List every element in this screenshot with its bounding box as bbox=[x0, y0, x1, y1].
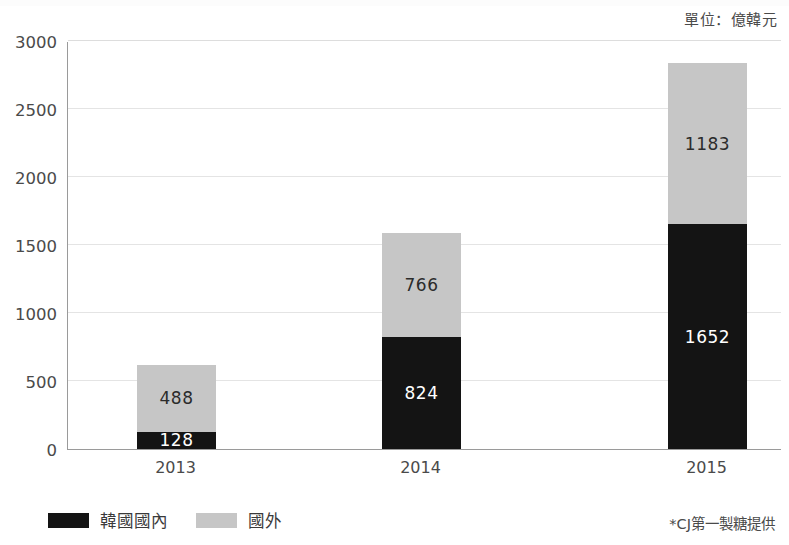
bar-segment-overseas[interactable]: 766 bbox=[382, 233, 461, 337]
page-background-tint bbox=[0, 0, 789, 6]
y-axis-tick-label: 500 bbox=[0, 373, 57, 392]
legend-item-domestic[interactable]: 韓國國內 bbox=[48, 508, 168, 532]
bar-value-label: 824 bbox=[405, 383, 439, 403]
x-axis-tick-label: 2015 bbox=[686, 458, 727, 477]
bar-segment-domestic[interactable]: 128 bbox=[137, 432, 216, 449]
legend-swatch-domestic bbox=[48, 513, 89, 528]
legend-swatch-overseas bbox=[196, 513, 237, 528]
legend-label: 國外 bbox=[248, 508, 282, 532]
bar-value-label: 1183 bbox=[685, 134, 730, 154]
bar-group[interactable]: 824766 bbox=[382, 41, 461, 449]
x-axis-tick-label: 2014 bbox=[400, 458, 441, 477]
legend-item-overseas[interactable]: 國外 bbox=[196, 508, 282, 532]
bar-value-label: 128 bbox=[160, 430, 194, 450]
bar-value-label: 1652 bbox=[685, 327, 730, 347]
plot-area: 12848882476616521183 bbox=[67, 42, 781, 450]
legend: 韓國國內國外 bbox=[48, 508, 282, 532]
bar-segment-domestic[interactable]: 1652 bbox=[668, 224, 747, 449]
unit-caption: 單位：億韓元 bbox=[684, 8, 777, 29]
legend-label: 韓國國內 bbox=[100, 508, 168, 532]
x-axis-tick-label: 2013 bbox=[155, 458, 196, 477]
bar-value-label: 766 bbox=[405, 275, 439, 295]
bar-segment-overseas[interactable]: 488 bbox=[137, 365, 216, 431]
y-axis-tick-label: 3000 bbox=[0, 33, 57, 52]
bar-group[interactable]: 128488 bbox=[137, 41, 216, 449]
y-axis-tick-label: 0 bbox=[0, 441, 57, 460]
source-note: *CJ第一製糖提供 bbox=[669, 512, 775, 533]
y-axis-tick-label: 2500 bbox=[0, 101, 57, 120]
stacked-bar-chart: 單位：億韓元 12848882476616521183 050010001500… bbox=[0, 0, 789, 545]
bar-segment-domestic[interactable]: 824 bbox=[382, 337, 461, 449]
y-axis-tick-label: 2000 bbox=[0, 169, 57, 188]
bar-value-label: 488 bbox=[160, 388, 194, 408]
y-axis-tick-label: 1000 bbox=[0, 305, 57, 324]
bar-segment-overseas[interactable]: 1183 bbox=[668, 63, 747, 224]
y-axis-tick-label: 1500 bbox=[0, 237, 57, 256]
bar-group[interactable]: 16521183 bbox=[668, 41, 747, 449]
